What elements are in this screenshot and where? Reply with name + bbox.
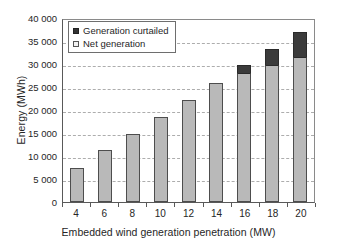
x-axis-tick (62, 203, 63, 207)
x-axis-tick-label: 16 (231, 208, 259, 219)
legend-item-label: Generation curtailed (83, 25, 169, 36)
bar-stack[interactable] (237, 65, 251, 202)
bar-slot (230, 20, 258, 202)
bar-segment-net-generation (265, 65, 279, 202)
y-axis-tick-label: 15 000 (28, 129, 57, 139)
y-axis-tick-label: 35 000 (28, 37, 57, 47)
bar-segment-curtailed (293, 32, 307, 57)
x-axis-tick-label: 18 (259, 208, 287, 219)
bar-stack[interactable] (126, 134, 140, 202)
x-axis-tick-label: 4 (62, 208, 90, 219)
bar-segment-net-generation (98, 150, 112, 202)
bar-stack[interactable] (293, 32, 307, 202)
bar-slot (175, 20, 203, 202)
legend-swatch-icon (73, 28, 79, 34)
x-axis-tick (287, 203, 288, 207)
bar-segment-net-generation (70, 168, 84, 202)
x-axis-tick (315, 203, 316, 207)
x-axis-title: Embedded wind generation penetration (MW… (0, 226, 337, 238)
bar-segment-net-generation (154, 117, 168, 202)
legend-item: Generation curtailed (73, 25, 169, 36)
bar-stack[interactable] (182, 100, 196, 202)
x-axis-tick (118, 203, 119, 207)
y-axis-tick-label: 0 (52, 198, 57, 208)
bar-segment-net-generation (182, 100, 196, 202)
x-axis-tick-label: 8 (118, 208, 146, 219)
y-axis-tick-label: 20 000 (28, 106, 57, 116)
bar-segment-curtailed (265, 49, 279, 66)
bar-stack[interactable] (154, 117, 168, 202)
chart-legend: Generation curtailedNet generation (68, 21, 176, 53)
x-axis-tick (231, 203, 232, 207)
y-axis-tick-label: 5 000 (33, 175, 57, 185)
y-axis-tick-label: 30 000 (28, 60, 57, 70)
bar-stack[interactable] (209, 83, 223, 202)
bar-slot (258, 20, 286, 202)
x-axis-tick-label: 14 (203, 208, 231, 219)
bar-slot (202, 20, 230, 202)
bar-stack[interactable] (98, 150, 112, 202)
x-axis-tick-label: 10 (146, 208, 174, 219)
y-axis-tick-label: 10 000 (28, 152, 57, 162)
x-axis-tick (259, 203, 260, 207)
x-axis-tick (203, 203, 204, 207)
bar-slot (286, 20, 314, 202)
y-axis-tick-labels: 40 00035 00030 00025 00020 00015 00010 0… (0, 0, 61, 251)
y-axis-tick-label: 25 000 (28, 83, 57, 93)
bar-stack[interactable] (265, 49, 279, 202)
bar-segment-net-generation (209, 83, 223, 202)
y-axis-tick-label: 40 000 (28, 14, 57, 24)
x-axis-tick-label: 20 (287, 208, 315, 219)
bar-stack[interactable] (70, 168, 84, 202)
bar-segment-net-generation (126, 134, 140, 202)
x-axis-tick (174, 203, 175, 207)
x-axis-tick-label: 12 (174, 208, 202, 219)
x-axis-tick-label: 6 (90, 208, 118, 219)
legend-item: Net generation (73, 38, 169, 49)
bar-segment-net-generation (293, 57, 307, 202)
x-axis-tick-labels: 468101214161820 (62, 208, 315, 219)
legend-swatch-icon (73, 41, 79, 47)
bar-segment-net-generation (237, 73, 251, 202)
x-axis-tick (146, 203, 147, 207)
legend-item-label: Net generation (83, 38, 145, 49)
bar-segment-curtailed (237, 65, 251, 73)
chart-figure: Energy (MWh) 40 00035 00030 00025 00020 … (0, 0, 337, 251)
x-axis-tick (90, 203, 91, 207)
